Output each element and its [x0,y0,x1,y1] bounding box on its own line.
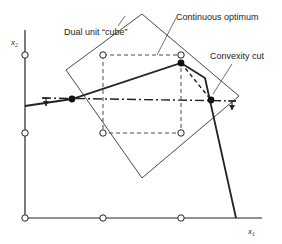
cut-marker-right [228,101,236,110]
lattice-point [178,215,184,221]
cut-intersection-left [69,96,76,103]
cut-intersection-right [208,97,215,104]
leader-convexity-cut [213,64,232,94]
leader-dual-cube [118,16,125,26]
lattice-point [22,130,28,136]
lattice-point [22,52,28,58]
feasible-region-boundary [25,63,236,218]
dual-unit-cube [66,14,239,178]
lattice-point [100,130,106,136]
lattice-point [100,52,106,58]
lattice-point [100,215,106,221]
lattice-point [178,130,184,136]
leader-continuous-optimum [157,18,176,55]
label-continuous-optimum: Continuous optimum [176,12,259,22]
label-dual-cube: Dual unit “cube” [64,27,128,37]
lattice-point [22,215,28,221]
diagram-canvas: Dual unit “cube” Continuous optimum Conv… [0,0,282,244]
y-axis-label: x2 [10,37,18,48]
lattice-point [178,52,184,58]
continuous-optimum-point [178,60,185,67]
x-axis-label: x1 [247,226,255,237]
label-convexity-cut: Convexity cut [210,51,265,61]
